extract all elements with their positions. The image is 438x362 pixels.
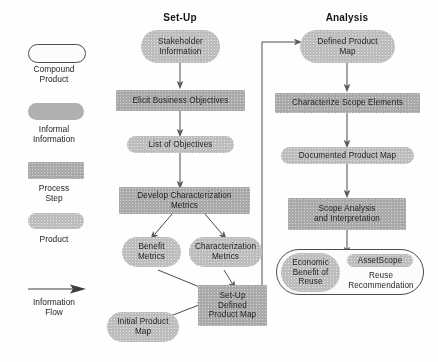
node-develop-characterization-metrics-line1: Develop Characterization xyxy=(119,191,250,201)
legend-label-compound-line2: Product xyxy=(0,74,108,84)
flow-develop-to-benefit xyxy=(155,214,172,234)
node-stakeholder-information[interactable]: Stakeholder Information xyxy=(141,30,220,63)
legend-swatch-compound-product xyxy=(28,44,86,63)
column-title-setup: Set-Up xyxy=(135,12,225,23)
legend-label-flow-line1: Information xyxy=(0,297,108,307)
node-elicit-business-objectives-line1: Elicit Business Objectives xyxy=(116,96,245,106)
node-reuse-recommendation-line2: Recommendation xyxy=(340,281,422,291)
node-compound-output[interactable]: Economic Benefit of Reuse AssetScope Reu… xyxy=(276,249,424,295)
legend-label-process-line2: Step xyxy=(0,193,108,203)
flow-develop-to-characterization xyxy=(205,214,222,234)
legend-label-compound-line1: Compound xyxy=(0,64,108,74)
diagram-canvas: Compound Product Informal Information Pr… xyxy=(0,0,438,362)
node-setup-defined-product-map-line2: Defined xyxy=(198,301,267,311)
node-setup-defined-product-map-line3: Product Map xyxy=(198,310,267,320)
node-benefit-metrics[interactable]: Benefit Metrics xyxy=(122,237,181,267)
node-scope-analysis-and-interpretation[interactable]: Scope Analysis and Interpretation xyxy=(288,198,406,230)
legend-label-informal-information: Informal Information xyxy=(0,124,108,144)
node-documented-product-map[interactable]: Documented Product Map xyxy=(281,147,414,164)
flow-characterization-to-setupmap xyxy=(224,270,232,283)
node-characterization-metrics-line2: Metrics xyxy=(189,252,262,262)
node-reuse-recommendation: Reuse Recommendation xyxy=(340,269,422,293)
node-assetscope-line1: AssetScope xyxy=(347,256,413,266)
legend-label-product: Product xyxy=(0,234,108,244)
node-economic-benefit-line1: Economic xyxy=(281,258,340,268)
node-scope-analysis-and-interpretation-line1: Scope Analysis xyxy=(288,204,406,214)
node-develop-characterization-metrics[interactable]: Develop Characterization Metrics xyxy=(119,187,250,214)
node-economic-benefit-line3: Reuse xyxy=(281,277,340,287)
node-setup-defined-product-map-line1: Set-Up xyxy=(198,291,267,301)
legend-swatch-informal-information xyxy=(28,103,84,120)
legend: Compound Product Informal Information Pr… xyxy=(0,0,108,362)
node-defined-product-map[interactable]: Defined Product Map xyxy=(300,30,395,63)
legend-label-process-line1: Process xyxy=(0,183,108,193)
legend-label-compound-product: Compound Product xyxy=(0,64,108,84)
node-scope-analysis-and-interpretation-line2: and Interpretation xyxy=(288,214,406,224)
node-characterization-metrics-line1: Characterization xyxy=(189,242,262,252)
legend-label-information-flow: Information Flow xyxy=(0,297,108,317)
legend-label-product-line1: Product xyxy=(0,234,108,244)
legend-swatch-information-flow-arrow xyxy=(26,283,88,295)
node-characterize-scope-elements-line1: Characterize Scope Elements xyxy=(275,98,420,108)
node-economic-benefit-of-reuse[interactable]: Economic Benefit of Reuse xyxy=(281,253,340,292)
node-assetscope[interactable]: AssetScope xyxy=(347,254,413,267)
node-characterize-scope-elements[interactable]: Characterize Scope Elements xyxy=(275,93,420,113)
column-title-analysis: Analysis xyxy=(302,12,392,23)
node-benefit-metrics-line2: Metrics xyxy=(122,252,181,262)
node-list-of-objectives-line1: List of Objectives xyxy=(127,140,234,150)
node-develop-characterization-metrics-line2: Metrics xyxy=(119,201,250,211)
node-economic-benefit-line2: Benefit of xyxy=(281,268,340,278)
node-initial-product-map[interactable]: Initial Product Map xyxy=(107,312,179,342)
node-characterization-metrics[interactable]: Characterization Metrics xyxy=(189,237,262,267)
node-stakeholder-information-line1: Stakeholder xyxy=(141,37,220,47)
node-defined-product-map-line1: Defined Product xyxy=(300,37,395,47)
legend-label-informal-line2: Information xyxy=(0,134,108,144)
flow-benefit-to-setupmap xyxy=(158,270,202,288)
node-elicit-business-objectives[interactable]: Elicit Business Objectives xyxy=(116,90,245,111)
node-list-of-objectives[interactable]: List of Objectives xyxy=(127,136,234,153)
legend-swatch-process-step xyxy=(28,162,84,179)
legend-label-process-step: Process Step xyxy=(0,183,108,203)
node-benefit-metrics-line1: Benefit xyxy=(122,242,181,252)
legend-swatch-product xyxy=(28,213,84,229)
node-setup-defined-product-map[interactable]: Set-Up Defined Product Map xyxy=(198,285,267,326)
legend-label-informal-line1: Informal xyxy=(0,124,108,134)
node-documented-product-map-line1: Documented Product Map xyxy=(281,151,414,161)
legend-label-flow-line2: Flow xyxy=(0,307,108,317)
node-stakeholder-information-line2: Information xyxy=(141,47,220,57)
node-reuse-recommendation-line1: Reuse xyxy=(340,271,422,281)
node-defined-product-map-line2: Map xyxy=(300,47,395,57)
node-initial-product-map-line1: Initial Product xyxy=(107,317,179,327)
node-initial-product-map-line2: Map xyxy=(107,327,179,337)
